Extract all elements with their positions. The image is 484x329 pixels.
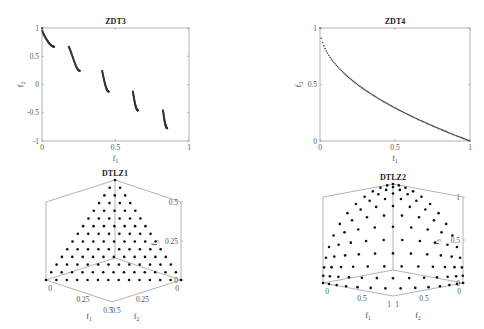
data-point (409, 206, 412, 209)
y-tick-label: 0 (35, 80, 39, 89)
data-point (398, 184, 401, 187)
data-point (71, 256, 74, 259)
data-point (98, 217, 101, 220)
data-point (353, 81, 355, 83)
data-point (406, 193, 409, 196)
y-tick-label: 0 (313, 137, 317, 146)
data-point (107, 279, 110, 282)
data-point (357, 253, 360, 256)
data-point (143, 271, 146, 274)
data-point (144, 225, 147, 228)
y-tick-label: 0.5 (30, 52, 40, 61)
data-point (103, 194, 106, 197)
data-point (107, 263, 110, 266)
data-point (343, 72, 345, 74)
data-point (86, 279, 89, 282)
x-tick-label: 0 (40, 143, 44, 152)
data-point (340, 70, 342, 72)
data-point (154, 271, 157, 274)
data-point (348, 77, 350, 79)
data-point (112, 271, 115, 274)
f2-tick-label: 0 (175, 284, 179, 293)
data-point (103, 209, 106, 212)
data-point (365, 240, 368, 243)
data-point (71, 240, 74, 243)
data-point (164, 256, 167, 259)
data-point (408, 277, 411, 280)
data-point (419, 240, 422, 243)
data-point (322, 282, 325, 285)
data-point (332, 60, 334, 62)
x-axis-label: f1 (392, 154, 398, 164)
data-point (446, 276, 449, 279)
x-tick-label: 0 (318, 143, 322, 152)
data-point (123, 225, 126, 228)
y-tick-label: 0.5 (308, 80, 318, 89)
data-point (392, 183, 395, 186)
f1-tick-label: 0 (48, 284, 52, 293)
data-point (423, 276, 426, 279)
data-point (344, 254, 347, 257)
f1-tick-label: 0.5 (111, 306, 121, 315)
data-point (420, 195, 423, 198)
f3-axis-label: f3 (432, 239, 442, 245)
data-point (384, 287, 387, 290)
axis-line (46, 180, 115, 202)
data-point (354, 82, 356, 84)
data-point (55, 263, 58, 266)
y-axis-label: f2 (294, 82, 304, 88)
data-point (92, 240, 95, 243)
f3-tick-label: 0 (174, 276, 178, 285)
data-point (128, 248, 131, 251)
f2-tick-label: 1 (387, 300, 391, 309)
data-point (450, 255, 453, 258)
data-point (180, 279, 183, 282)
axis-line (393, 184, 463, 197)
data-point (392, 205, 395, 208)
data-point (323, 45, 325, 47)
f3-tick-label: 0.5 (169, 198, 179, 207)
data-point (149, 233, 152, 236)
data-point (348, 276, 351, 279)
data-point (351, 219, 354, 222)
data-point (87, 248, 90, 251)
data-point (102, 240, 105, 243)
data-point (118, 233, 121, 236)
data-point (92, 225, 95, 228)
data-point (113, 209, 116, 212)
data-point (339, 223, 342, 226)
data-point (87, 217, 90, 220)
data-point (124, 194, 127, 197)
data-point (134, 209, 137, 212)
data-point (322, 42, 324, 44)
data-point (456, 283, 459, 286)
data-point (469, 140, 471, 142)
data-point (137, 109, 139, 111)
data-point (325, 256, 328, 259)
data-point (332, 234, 335, 237)
data-point (66, 263, 69, 266)
data-point (123, 256, 126, 259)
data-point (418, 216, 421, 219)
data-point (433, 219, 436, 222)
axes-box (42, 28, 189, 141)
data-point (361, 276, 364, 279)
data-point (417, 265, 420, 268)
data-point (366, 216, 369, 219)
axis-line (393, 270, 463, 283)
f3-tick-label: 0.25 (165, 237, 178, 246)
plot-title: DTLZ1 (102, 169, 128, 178)
data-point (61, 256, 64, 259)
data-point (383, 214, 386, 217)
data-point (154, 256, 157, 259)
data-point (134, 225, 137, 228)
data-point (327, 52, 329, 54)
f1-tick-label: 1 (395, 300, 399, 309)
data-point (71, 271, 74, 274)
plot-title: DTLZ2 (380, 173, 406, 182)
data-point (386, 184, 389, 187)
data-point (108, 217, 111, 220)
data-point (129, 217, 132, 220)
f2-tick-label: 0.25 (136, 295, 149, 304)
data-point (363, 195, 366, 198)
